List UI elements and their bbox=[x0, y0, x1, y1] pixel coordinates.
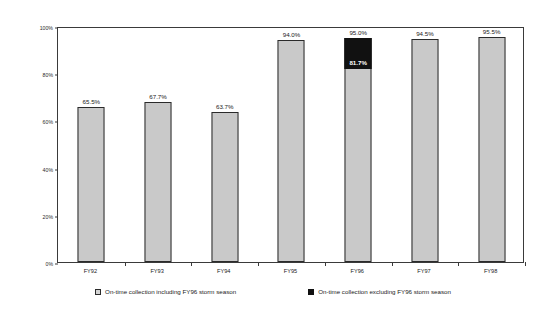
x-axis-label: FY97 bbox=[417, 268, 430, 274]
bar bbox=[478, 37, 505, 262]
plot-area: 0%20%40%60%80%100% 65.5%67.7%63.7%94.0%8… bbox=[57, 27, 524, 263]
bar: 81.7% bbox=[345, 38, 372, 262]
x-axis-label: FY94 bbox=[217, 268, 230, 274]
x-tick-mark bbox=[325, 262, 326, 266]
bar-segment-value-label: 81.7% bbox=[349, 59, 367, 66]
x-tick-mark bbox=[392, 262, 393, 266]
x-tick-mark bbox=[125, 262, 126, 266]
bar-value-label: 65.5% bbox=[83, 98, 101, 105]
legend-item: On-time collection excluding FY96 storm … bbox=[308, 288, 451, 295]
bar-value-label: 63.7% bbox=[216, 103, 234, 110]
bar-group: 95.5% bbox=[458, 28, 525, 262]
legend-swatch-icon bbox=[308, 289, 314, 295]
bar-group: 81.7%95.0% bbox=[325, 28, 392, 262]
bar-group: 63.7% bbox=[191, 28, 258, 262]
bar bbox=[145, 102, 172, 262]
x-axis-label: FY93 bbox=[150, 268, 163, 274]
legend-item: On-time collection including FY96 storm … bbox=[95, 288, 236, 295]
bar bbox=[278, 40, 305, 262]
bars-layer: 65.5%67.7%63.7%94.0%81.7%95.0%94.5%95.5% bbox=[58, 28, 523, 262]
bar-group: 94.0% bbox=[258, 28, 325, 262]
bar-group: 65.5% bbox=[58, 28, 125, 262]
bar-segment-excluding-storm: 81.7% bbox=[345, 38, 372, 69]
bar-value-label: 67.7% bbox=[149, 93, 167, 100]
x-tick-mark bbox=[191, 262, 192, 266]
bar bbox=[411, 39, 438, 262]
y-tick-mark bbox=[55, 264, 58, 265]
bar bbox=[78, 107, 105, 262]
bar-value-label: 94.5% bbox=[416, 30, 434, 37]
bar-value-label: 95.0% bbox=[349, 29, 367, 36]
chart-legend: On-time collection including FY96 storm … bbox=[0, 288, 546, 295]
legend-swatch-icon bbox=[95, 289, 101, 295]
bar-chart: On-time Collection Percentage 0%20%40%60… bbox=[0, 0, 546, 312]
x-tick-mark bbox=[525, 262, 526, 266]
x-axis-label: FY92 bbox=[84, 268, 97, 274]
bar-group: 94.5% bbox=[392, 28, 459, 262]
legend-label: On-time collection including FY96 storm … bbox=[105, 288, 236, 295]
x-tick-mark bbox=[258, 262, 259, 266]
legend-label: On-time collection excluding FY96 storm … bbox=[318, 288, 451, 295]
bar-value-label: 95.5% bbox=[483, 28, 501, 35]
x-axis-label: FY95 bbox=[284, 268, 297, 274]
bar bbox=[211, 112, 238, 262]
x-tick-mark bbox=[458, 262, 459, 266]
bar-value-label: 94.0% bbox=[283, 31, 301, 38]
x-axis-label: FY98 bbox=[484, 268, 497, 274]
x-axis-label: FY96 bbox=[351, 268, 364, 274]
bar-group: 67.7% bbox=[125, 28, 192, 262]
